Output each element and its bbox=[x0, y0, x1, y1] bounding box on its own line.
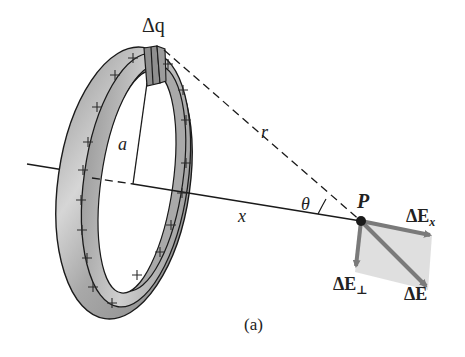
angle-arc bbox=[318, 199, 326, 214]
label-delta-e: ΔE bbox=[404, 284, 427, 304]
label-angle-theta: θ bbox=[301, 194, 310, 214]
label-delta-e-x: ΔEx bbox=[406, 206, 435, 229]
label-distance-r: r bbox=[261, 122, 269, 142]
ring-field-diagram: Δq a r x θ P ΔEx ΔE⊥ ΔE (a) bbox=[0, 0, 465, 357]
figure-caption: (a) bbox=[244, 315, 263, 334]
label-point-p: P bbox=[356, 190, 370, 212]
label-axis-x: x bbox=[237, 206, 246, 226]
label-radius-a: a bbox=[118, 134, 127, 154]
charge-element-slice bbox=[144, 46, 166, 86]
point-p-dot bbox=[356, 216, 366, 226]
label-delta-e-perp: ΔE⊥ bbox=[333, 274, 368, 297]
axis-line-left bbox=[27, 164, 64, 170]
label-delta-q: Δq bbox=[142, 14, 165, 37]
